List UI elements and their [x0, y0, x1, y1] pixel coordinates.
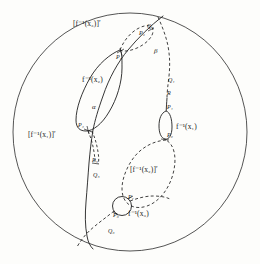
point-label-P6: P₆ — [113, 212, 119, 218]
preimage-x3-prime-dashed-loop — [120, 26, 153, 51]
point-label-P4: P₄ — [78, 122, 84, 128]
label-preimage-x3: f⁻¹(x₃) — [128, 210, 149, 218]
beta-curve-dashed — [158, 17, 170, 98]
point-label-Q5: Q₅ — [93, 172, 100, 178]
label-preimage-x1: f⁻¹(x₁) — [176, 123, 197, 131]
preimage-x2-oval — [76, 50, 122, 131]
label-preimage-x2-prime: [f⁻¹(x₂)]′ — [130, 166, 158, 174]
point-label-P1: P₁ — [167, 104, 173, 110]
point-label-P0: P₀ — [167, 132, 173, 138]
node-P5-tick — [92, 163, 99, 164]
point-label-R: R — [167, 90, 171, 96]
point-label-Q1: Q₁ — [168, 77, 175, 83]
point-label-P7: P₇ — [128, 194, 134, 200]
alpha-curve-solid — [85, 16, 163, 249]
label-preimage-x2: f⁻¹(x₂) — [82, 76, 103, 84]
point-label-P2: P₂ — [139, 30, 145, 36]
label-alpha: α — [92, 104, 96, 111]
point-label-Q2: Q₂ — [147, 23, 154, 29]
point-label-P5: P₅ — [92, 157, 98, 163]
label-preimage-x3-prime: [f⁻¹(x₃)]′ — [73, 20, 101, 28]
point-label-P3: P₃ — [116, 54, 122, 60]
lower-right-dashed-arc — [130, 196, 170, 201]
point-label-Q6: Q₆ — [108, 228, 115, 234]
label-preimage-x1-prime: [f⁻¹(x₁)]′ — [28, 131, 56, 139]
label-beta: β — [154, 48, 158, 55]
figure-canvas: [f⁻¹(x₃)]′ f⁻¹(x₂) f⁻¹(x₁) [f⁻¹(x₁)]′ [f… — [0, 0, 260, 264]
